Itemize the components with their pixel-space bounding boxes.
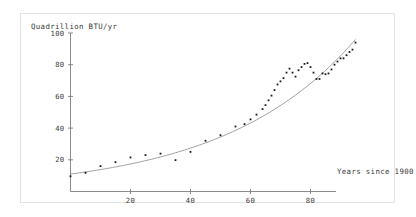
data-point (190, 151, 192, 153)
data-point (310, 66, 312, 68)
y-axis-tick-label: 60 (43, 92, 65, 101)
x-axis-tick-label: 40 (180, 196, 202, 205)
data-point (250, 118, 252, 120)
data-point (268, 99, 270, 101)
y-axis-tick-label: 80 (43, 60, 65, 69)
data-point (160, 153, 162, 155)
data-point (334, 64, 336, 66)
data-point (145, 154, 147, 156)
data-point (343, 57, 345, 59)
data-point (235, 126, 237, 128)
data-point (175, 159, 177, 161)
data-point (352, 49, 354, 51)
data-point (325, 73, 327, 75)
x-axis-tick-label: 20 (120, 196, 142, 205)
y-axis-tick-label: 40 (43, 124, 65, 133)
data-point (316, 78, 318, 80)
data-point (328, 73, 330, 75)
data-point (307, 62, 309, 64)
data-point (115, 161, 117, 163)
data-point (319, 78, 321, 80)
fit-curve (71, 39, 356, 174)
data-point (85, 172, 87, 174)
data-point (244, 123, 246, 125)
data-point (286, 72, 288, 74)
scatter-series (70, 42, 357, 178)
data-point (271, 95, 273, 97)
x-axis-tick-label: 80 (300, 196, 322, 205)
data-point (205, 140, 207, 142)
chart-screenshot: Quadrillion BTU/yr Years since 1900 2040… (0, 0, 416, 217)
data-point (283, 77, 285, 79)
data-point (277, 84, 279, 86)
data-point (313, 72, 315, 74)
data-point (304, 63, 306, 65)
data-point (262, 108, 264, 110)
data-point (292, 72, 294, 74)
data-point (337, 61, 339, 63)
y-axis-tick-label: 20 (43, 155, 65, 164)
x-axis-label: Years since 1900 (337, 167, 414, 176)
data-point (70, 175, 72, 177)
data-point (289, 68, 291, 70)
data-point (340, 57, 342, 59)
data-point (274, 89, 276, 91)
data-point (256, 114, 258, 116)
data-point (349, 51, 351, 53)
data-point (346, 54, 348, 56)
data-point (220, 134, 222, 136)
data-point (265, 104, 267, 106)
data-point (322, 73, 324, 75)
y-axis-tick-label: 100 (43, 29, 65, 38)
x-axis-tick-label: 60 (240, 196, 262, 205)
data-point (295, 76, 297, 78)
data-point (280, 80, 282, 82)
data-point (301, 66, 303, 68)
data-point (331, 69, 333, 71)
data-point (355, 42, 357, 44)
data-point (130, 157, 132, 159)
data-point (100, 165, 102, 167)
data-point (298, 69, 300, 71)
